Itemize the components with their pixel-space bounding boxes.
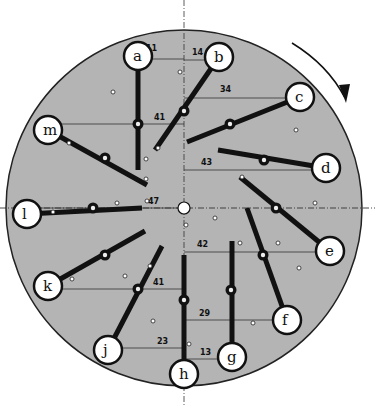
roller-label-l: l xyxy=(22,205,27,223)
pin xyxy=(238,241,242,245)
pin xyxy=(151,319,155,323)
hub-circle xyxy=(178,202,190,214)
pin xyxy=(178,70,182,74)
pin xyxy=(187,342,191,346)
roller-label-e: e xyxy=(325,242,334,260)
pin xyxy=(144,177,148,181)
measure-label-k: 41 xyxy=(153,278,165,287)
roller-circle xyxy=(13,200,41,228)
diagram-canvas: 1114344342291323414741 abcdefghjklm xyxy=(0,0,375,407)
pin xyxy=(240,175,244,179)
pivot-hole xyxy=(182,298,186,302)
pivot-hole xyxy=(228,122,232,126)
pivot-hole xyxy=(262,158,266,162)
measure-label-d: 43 xyxy=(201,158,212,167)
pin xyxy=(184,223,188,227)
roller-label-m: m xyxy=(43,121,57,139)
rotating-disk-diagram: 1114344342291323414741 abcdefghjklm xyxy=(0,0,375,407)
roller-circle xyxy=(94,336,122,364)
pivot-hole xyxy=(229,288,233,292)
pin xyxy=(123,274,127,278)
measure-label-c: 34 xyxy=(220,85,232,94)
measure-label-m: 41 xyxy=(154,113,166,122)
roller-label-h: h xyxy=(179,365,189,383)
measure-label-b: 14 xyxy=(192,48,204,57)
pin xyxy=(276,241,280,245)
pin xyxy=(115,201,119,205)
roller-label-k: k xyxy=(43,277,53,295)
measure-label-e: 42 xyxy=(197,240,208,249)
measure-label-l: 47 xyxy=(148,197,159,206)
pivot-hole xyxy=(261,253,265,257)
pin xyxy=(67,141,71,145)
pin xyxy=(297,266,301,270)
pivot-hole xyxy=(136,122,140,126)
pin xyxy=(251,321,255,325)
measure-label-f: 29 xyxy=(199,309,211,318)
roller-label-b: b xyxy=(214,48,224,66)
pivot-hole xyxy=(91,206,95,210)
pin xyxy=(213,216,217,220)
pin xyxy=(111,90,115,94)
measure-label-g: 13 xyxy=(200,348,211,357)
center-hub xyxy=(178,202,190,214)
pin xyxy=(51,210,55,214)
arrow-head-icon xyxy=(339,84,350,103)
roller-label-d: d xyxy=(321,159,331,177)
pin xyxy=(70,277,74,281)
pivot-hole xyxy=(136,287,140,291)
pin xyxy=(144,157,148,161)
pivot-hole xyxy=(103,156,107,160)
roller-label-a: a xyxy=(133,47,142,65)
pivot-hole xyxy=(182,109,186,113)
pivot-hole xyxy=(274,206,278,210)
pin xyxy=(145,199,149,203)
roller-label-g: g xyxy=(227,348,237,366)
pin xyxy=(148,264,152,268)
roller-label-c: c xyxy=(295,88,303,106)
pin xyxy=(156,146,160,150)
pin xyxy=(294,128,298,132)
measure-label-j: 23 xyxy=(157,337,168,346)
pivot-hole xyxy=(103,253,107,257)
pin xyxy=(313,201,317,205)
